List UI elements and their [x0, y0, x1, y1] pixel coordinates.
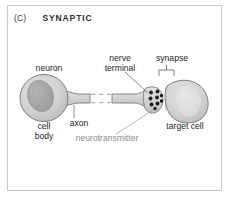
label-synapse: synapse [148, 54, 196, 64]
nerve-terminal-bouton [143, 87, 163, 113]
target-cell [165, 80, 208, 123]
label-nerve-terminal: nerve terminal [96, 54, 144, 73]
label-cell-body-line1: cell [38, 121, 51, 131]
label-target-cell: target cell [156, 122, 214, 132]
neuron-cell-body [20, 75, 68, 122]
label-cell-body-line2: body [35, 131, 54, 141]
figure-panel: (C) SYNAPTIC [7, 5, 222, 191]
axon-break [91, 94, 111, 102]
axon-distal [112, 90, 148, 107]
synaptic-diagram [8, 6, 221, 190]
nerve-terminal-leader-line [125, 72, 148, 93]
label-nerve-terminal-line1: nerve [109, 53, 131, 63]
label-cell-body: cell body [24, 122, 64, 141]
label-nerve-terminal-line2: terminal [105, 63, 136, 73]
label-neurotransmitter: neurotransmitter [61, 134, 153, 144]
synapse-bracket [159, 65, 174, 76]
label-neuron: neuron [25, 64, 73, 74]
label-axon: axon [63, 119, 95, 129]
neurotransmitter-leader-line [116, 110, 153, 134]
